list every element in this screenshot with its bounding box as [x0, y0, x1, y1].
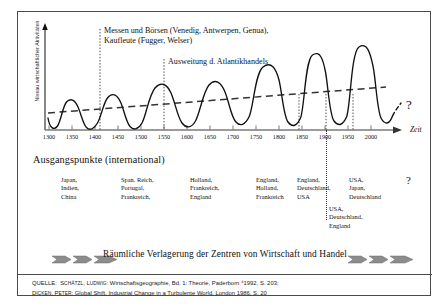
origins-column-1-line-1: Japan,: [61, 176, 79, 184]
origins-title: Ausgangspunkte (international): [33, 154, 165, 165]
origins-column-5-line-1: England,: [297, 176, 331, 184]
origins-marker-line: [326, 130, 327, 220]
caption-banner: Räumliche Verlagerung der Zentren von Wi…: [18, 244, 432, 270]
annotation-marker-1-line-2: Kaufleute (Fugger, Welser): [104, 36, 269, 46]
chart-question-mark: ?: [406, 97, 412, 113]
source-line-2: DICKEN, PETER: Global Shift. Industrial …: [32, 289, 279, 299]
origins-column-4: England, Holland, Frankreich: [256, 176, 284, 201]
origins-section: Ausgangspunkte (international) Japan, In…: [18, 152, 432, 244]
origins-column-5-line-2: Deutschland,: [297, 184, 331, 192]
source-author-1-surname: CHÄTZL: [64, 281, 83, 286]
source-author-2-surname: ICKEN: [36, 291, 51, 296]
origins-column-5: England, Deutschland, USA: [297, 176, 331, 201]
origins-column-3: Holland, Frankreich, England: [190, 176, 219, 201]
origins-column-3-line-1: Holland,: [190, 176, 219, 184]
origins-question-mark: ?: [406, 174, 411, 186]
origins-column-2-line-1: Span. Reich,: [121, 176, 153, 184]
origins-column-7: USA, Deutschland, England: [329, 205, 363, 230]
origins-column-6-line-3: Deutschland: [349, 193, 381, 201]
future-dash: [393, 103, 402, 116]
source-ref-1: : Wirtschaftsgeographie, Bd. 1: Theorie,…: [107, 280, 279, 286]
origins-column-2-line-2: Portugal,: [121, 184, 153, 192]
figure-root: Niveau wirtschaftlicher Aktivitäten Mess…: [0, 0, 447, 307]
chart-area: Niveau wirtschaftlicher Aktivitäten Mess…: [18, 12, 432, 152]
origins-column-7-line-2: Deutschland,: [329, 213, 363, 221]
origins-column-7-line-3: England: [329, 222, 363, 230]
annotation-marker-2: Ausweitung d. Atlantikhandels: [168, 57, 268, 67]
source-author-1-firstname: UDWIG: [90, 281, 107, 286]
origins-column-1-line-2: Indien,: [61, 184, 79, 192]
chevron-arrow-right-group: [348, 251, 420, 269]
origins-column-7-line-1: USA,: [329, 205, 363, 213]
source-label: QUELLE:: [32, 280, 57, 286]
chevron-arrow-icon: [348, 254, 420, 265]
annotation-marker-1: Messen und Börsen (Venedig, Antwerpen, G…: [104, 26, 269, 45]
y-axis-label: Niveau wirtschaftlicher Aktivitäten: [34, 9, 40, 113]
origins-column-4-line-2: Holland,: [256, 184, 284, 192]
source-line-1: QUELLE: SCHÄTZL, LUDWIG: Wirtschaftsgeog…: [32, 279, 279, 289]
origins-column-2: Span. Reich, Portugal, Frankreich,: [121, 176, 153, 201]
origins-column-2-line-3: Frankreich,: [121, 193, 153, 201]
origins-column-5-line-3: USA: [297, 193, 331, 201]
origins-column-6-line-1: USA,: [349, 176, 381, 184]
source-block: QUELLE: SCHÄTZL, LUDWIG: Wirtschaftsgeog…: [32, 279, 279, 298]
origins-column-1-line-3: China: [61, 193, 79, 201]
x-tick-2000: 2000: [358, 133, 384, 140]
origins-column-1: Japan, Indien, China: [61, 176, 79, 201]
figure-frame: Niveau wirtschaftlicher Aktivitäten Mess…: [17, 11, 431, 296]
origins-column-6-line-2: Japan,: [349, 184, 381, 192]
origins-column-3-line-2: Frankreich,: [190, 184, 219, 192]
trend-line: [48, 87, 386, 113]
origins-column-3-line-3: England: [190, 193, 219, 201]
origins-column-6: USA, Japan, Deutschland: [349, 176, 381, 201]
source-divider: [18, 274, 432, 275]
x-axis-label: Zeit: [410, 125, 422, 134]
origins-column-4-line-1: England,: [256, 176, 284, 184]
origins-column-4-line-3: Frankreich: [256, 193, 284, 201]
annotation-marker-1-line-1: Messen und Börsen (Venedig, Antwerpen, G…: [104, 26, 269, 36]
source-author-2-firstname: ETER: [58, 291, 71, 296]
y-axis: [42, 23, 48, 130]
source-ref-2: : Global Shift. Industrial Change in a T…: [71, 290, 266, 296]
